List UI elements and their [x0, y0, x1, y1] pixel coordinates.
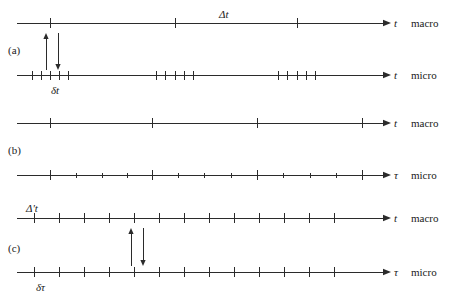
- panel-label-c: (c): [8, 243, 20, 254]
- axis-c-macro: [17, 213, 391, 223]
- axis-c-micro: [17, 267, 391, 277]
- axis-arrowhead: [383, 172, 391, 178]
- delta-t-micro-label: δt: [51, 85, 59, 96]
- axis-variable-b-micro: τ: [394, 170, 398, 181]
- axis-arrowhead: [383, 269, 391, 275]
- axis-b-micro: [17, 170, 391, 180]
- arrow-head-down: [140, 260, 145, 266]
- axis-variable-a-micro: t: [394, 70, 397, 81]
- axis-a-micro: [17, 71, 391, 80]
- axis-scale-c-micro: micro: [411, 267, 437, 278]
- transfer-arrow-c-down: [140, 228, 145, 266]
- axis-b-macro: [17, 118, 391, 128]
- delta-tau-label: δτ: [36, 282, 45, 293]
- axis-variable-c-macro: t: [394, 213, 397, 224]
- arrow-head-down: [55, 64, 60, 70]
- axis-arrowhead: [383, 215, 391, 221]
- axis-arrowhead: [383, 72, 391, 78]
- delta-prime-t-label: Δ't: [26, 203, 38, 214]
- axis-scale-b-micro: micro: [411, 170, 437, 181]
- axis-scale-a-macro: macro: [411, 18, 438, 29]
- panel-label-b: (b): [8, 145, 21, 156]
- axis-a-macro: [17, 18, 391, 28]
- axis-scale-a-micro: micro: [411, 70, 437, 81]
- transfer-arrow-a-up: [43, 33, 48, 70]
- arrow-head-up: [43, 33, 48, 39]
- figure-canvas: (a)tmacrotmicroΔtδt(b)tmacroτmicro(c)tma…: [0, 0, 458, 295]
- axis-variable-c-micro: τ: [394, 267, 398, 278]
- transfer-arrow-a-down: [55, 33, 60, 70]
- arrow-head-up: [128, 228, 133, 234]
- axis-variable-b-macro: t: [394, 118, 397, 129]
- axis-arrowhead: [383, 20, 391, 26]
- delta-t-macro-label: Δt: [219, 9, 229, 20]
- transfer-arrow-c-up: [128, 228, 133, 266]
- axis-arrowhead: [383, 120, 391, 126]
- axis-scale-c-macro: macro: [411, 213, 438, 224]
- axes-graphics: [0, 0, 458, 295]
- axis-variable-a-macro: t: [394, 18, 397, 29]
- panel-label-a: (a): [8, 45, 20, 56]
- axis-scale-b-macro: macro: [411, 118, 438, 129]
